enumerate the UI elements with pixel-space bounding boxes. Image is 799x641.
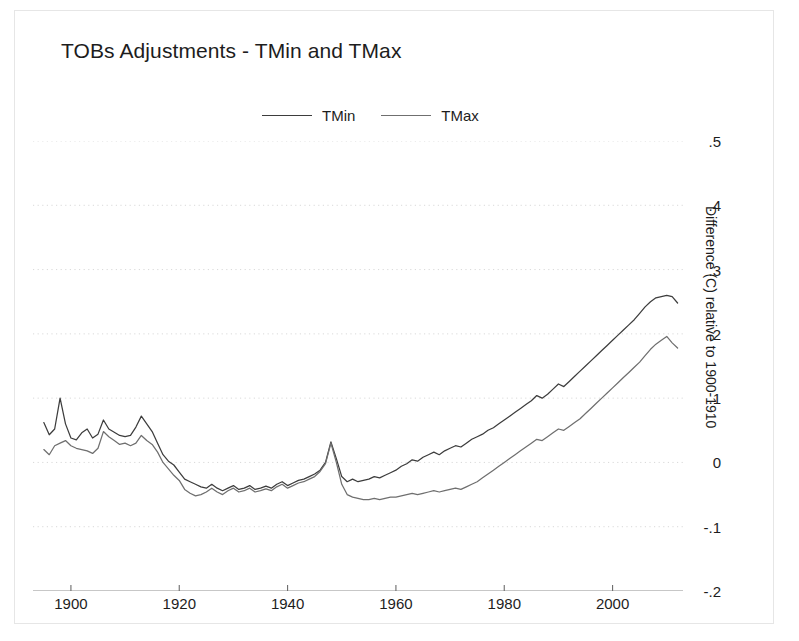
legend-label-tmin: TMin [322, 107, 355, 124]
x-axis-tick-labels: 190019201940196019802000 [33, 589, 683, 619]
figure-frame: TOBs Adjustments - TMin and TMax TMin TM… [14, 10, 774, 624]
y-axis-tick-label: .5 [708, 133, 721, 150]
x-axis-tick-label: 1940 [271, 595, 304, 612]
chart-title: TOBs Adjustments - TMin and TMax [61, 39, 402, 63]
legend-label-tmax: TMax [441, 107, 479, 124]
x-axis-tick-label: 1960 [379, 595, 412, 612]
chart-legend: TMin TMax [262, 107, 479, 124]
legend-item-tmax: TMax [381, 107, 479, 124]
x-axis-tick-label: 2000 [596, 595, 629, 612]
series-line-tmin [44, 295, 678, 490]
plot-svg [33, 141, 683, 591]
y-axis-title: Difference (C) relative to 1900-1910 [703, 206, 719, 428]
x-axis-tick-label: 1920 [163, 595, 196, 612]
x-axis-tick-label: 1980 [488, 595, 521, 612]
legend-line-tmin-icon [262, 115, 312, 116]
plot-area [33, 141, 683, 591]
y-axis-tick-label: -.1 [703, 518, 721, 535]
y-axis-tick-label: 0 [713, 454, 721, 471]
y-axis-tick-label: -.2 [703, 583, 721, 600]
series-line-tmax [44, 336, 678, 499]
x-axis-tick-label: 1900 [54, 595, 87, 612]
legend-item-tmin: TMin [262, 107, 355, 124]
legend-line-tmax-icon [381, 115, 431, 116]
